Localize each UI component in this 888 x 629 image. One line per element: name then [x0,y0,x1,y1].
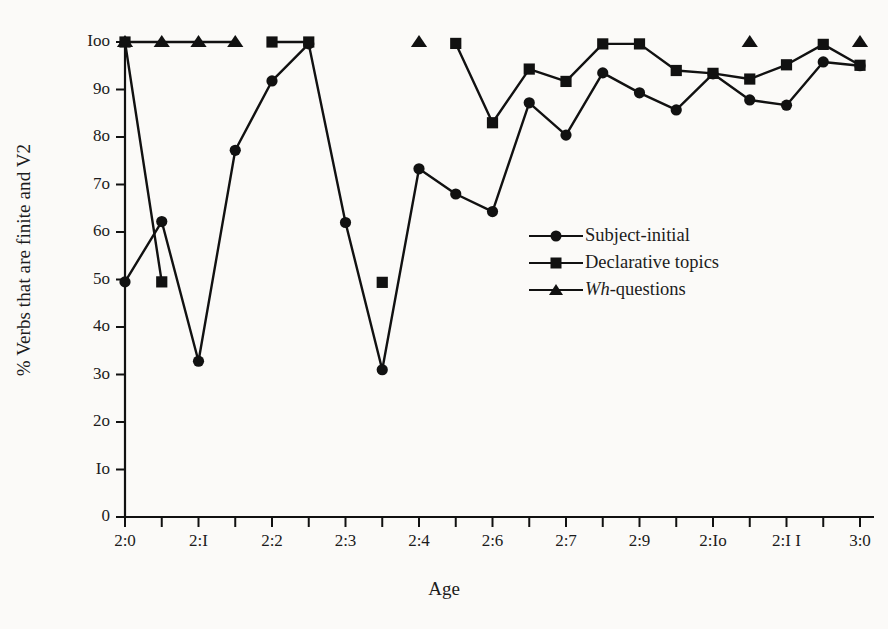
legend-label-wh-italic: Wh [585,279,610,299]
data-point-square [634,38,645,49]
y-tick-label: 6o [60,221,110,241]
y-tick-label: 0 [60,506,110,526]
data-point-square [818,39,829,50]
y-tick-label: 2o [60,411,110,431]
y-tick-label: 3o [60,364,110,384]
y-tick-label: 4o [60,316,110,336]
legend-item-wh-questions: Wh-questions [527,276,777,303]
x-tick-label: 2:I [164,531,234,551]
legend-label-wh-suffix: -questions [610,279,686,299]
data-point-circle [156,216,167,227]
legend-label-subject-initial: Subject-initial [585,225,690,246]
x-tick-label: 2:9 [605,531,675,551]
x-tick-label: 2:I I [752,531,822,551]
legend-symbol-triangle-icon [527,280,585,300]
legend-item-subject-initial: Subject-initial [527,222,777,249]
data-point-square [597,38,608,49]
y-tick-label: Ioo [60,31,110,51]
y-tick-label: 9o [60,79,110,99]
data-point-circle [377,364,388,375]
data-point-triangle [411,35,427,47]
legend-label-declarative-topics: Declarative topics [585,252,719,273]
x-tick-label: 2:4 [384,531,454,551]
data-point-square [854,60,865,71]
data-point-square [156,276,167,287]
x-tick-label: 2:2 [237,531,307,551]
x-tick-label: 2:0 [90,531,160,551]
x-tick-label: 2:6 [458,531,528,551]
data-point-square [707,68,718,79]
data-point-circle [634,87,645,98]
data-point-circle [119,276,130,287]
data-point-circle [744,94,755,105]
data-point-circle [560,130,571,141]
data-point-square [266,36,277,47]
data-point-circle [450,188,461,199]
x-tick-label: 3:0 [825,531,888,551]
y-tick-label: Io [60,459,110,479]
data-point-square [524,63,535,74]
data-point-circle [413,163,424,174]
data-point-circle [340,217,351,228]
legend-symbol-square-icon [527,253,585,273]
legend-item-declarative-topics: Declarative topics [527,249,777,276]
data-point-circle [230,145,241,156]
data-point-circle [524,97,535,108]
data-point-square [671,65,682,76]
legend: Subject-initial Declarative topics Wh-qu… [527,222,777,303]
data-point-square [377,277,388,288]
data-point-square [303,36,314,47]
legend-symbol-circle-icon [527,226,585,246]
data-point-circle [818,56,829,67]
y-tick-label: 5o [60,269,110,289]
y-tick-label: 8o [60,126,110,146]
data-point-square [781,59,792,70]
data-point-circle [193,356,204,367]
series-triangle [117,35,868,47]
data-point-circle [597,67,608,78]
y-tick-label: 7o [60,174,110,194]
x-tick-label: 2:7 [531,531,601,551]
data-series [117,35,868,375]
data-point-triangle [852,35,868,47]
data-point-square [450,38,461,49]
data-point-square [487,117,498,128]
figure-container: % Verbs that are finite and V2 Age 0Io2o… [0,0,888,629]
data-point-square [744,73,755,84]
data-point-triangle [742,35,758,47]
data-point-circle [781,100,792,111]
data-point-circle [266,75,277,86]
x-tick-label: 2:3 [311,531,381,551]
series-circle [119,38,865,375]
data-point-circle [487,206,498,217]
x-tick-label: 2:Io [678,531,748,551]
legend-label-wh-questions: Wh-questions [585,279,686,300]
data-point-circle [671,104,682,115]
data-point-square [560,76,571,87]
